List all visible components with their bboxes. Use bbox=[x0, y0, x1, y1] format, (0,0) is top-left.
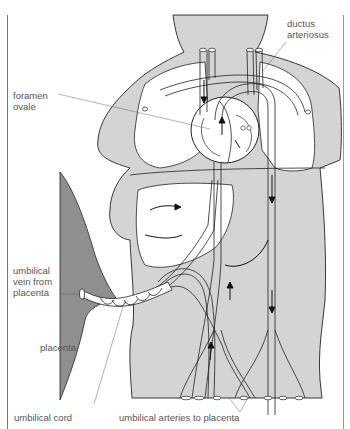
label-placenta: placenta bbox=[40, 342, 76, 353]
label-umbilical-cord: umbilical cord bbox=[14, 412, 72, 423]
placenta-shape bbox=[60, 172, 116, 400]
label-umbilical-arteries: umbilical arteries to placenta bbox=[119, 412, 239, 423]
fetal-circulation-diagram: ductus arteriosus foramen ovale umbilica… bbox=[0, 0, 350, 429]
label-umbilical-vein: umbilical vein from placenta bbox=[13, 265, 52, 298]
diagram-illustration bbox=[0, 0, 350, 429]
label-ductus-arteriosus: ductus arteriosus bbox=[287, 18, 329, 40]
valve-dot bbox=[247, 126, 251, 130]
label-foramen-ovale: foramen ovale bbox=[13, 90, 48, 112]
valve-dot bbox=[241, 126, 245, 130]
